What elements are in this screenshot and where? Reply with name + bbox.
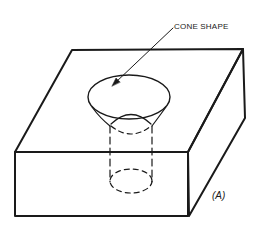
block-front-face <box>15 152 188 216</box>
cone-top-ellipse <box>88 75 170 119</box>
cone-shape-label: CONE SHAPE <box>174 22 228 31</box>
cone-side-right <box>152 107 166 126</box>
figure-label: (A) <box>212 190 225 201</box>
leader-line <box>115 28 173 83</box>
bore-bottom-ellipse <box>110 169 152 193</box>
cone-side-left <box>92 107 110 126</box>
bore-top-hidden <box>111 126 151 134</box>
block-top-face <box>15 49 243 152</box>
